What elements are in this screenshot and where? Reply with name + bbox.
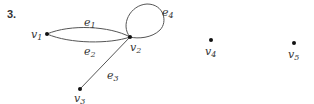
label-v2: v2: [130, 41, 141, 55]
label-e2: e2: [84, 45, 96, 59]
vertex-v2: [128, 35, 132, 39]
vertex-v3: [78, 87, 82, 91]
edge-e4-loop: [126, 4, 164, 38]
graph-diagram: 3. v1 v2 v3 v4 v5 e1 e2 e3 e4: [0, 0, 314, 104]
label-v4: v4: [205, 45, 216, 59]
vertex-v5: [292, 41, 296, 45]
vertex-v1: [45, 32, 49, 36]
edge-e2: [47, 34, 130, 42]
label-e4: e4: [162, 6, 174, 20]
label-v1: v1: [31, 28, 42, 42]
problem-number: 3.: [7, 8, 16, 20]
label-e1: e1: [84, 16, 96, 30]
label-v3: v3: [74, 92, 85, 104]
vertex-v4: [209, 38, 213, 42]
label-e3: e3: [107, 69, 119, 83]
label-v5: v5: [288, 48, 299, 62]
